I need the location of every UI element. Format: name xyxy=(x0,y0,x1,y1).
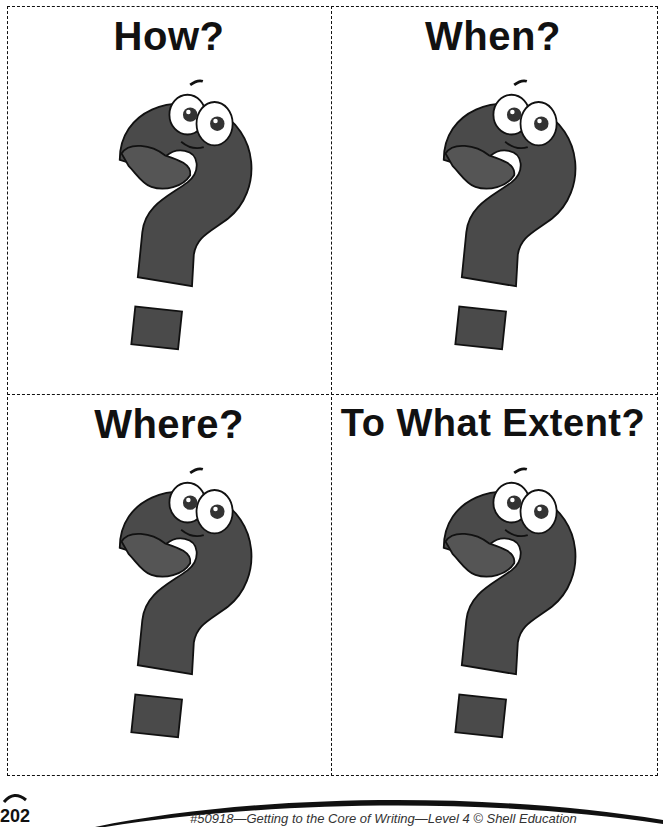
card-when: When? xyxy=(331,6,655,394)
footer-citation: #50918—Getting to the Core of Writing—Le… xyxy=(190,811,577,826)
card-title: When? xyxy=(331,14,655,59)
card-how: How? xyxy=(7,6,331,394)
question-mark-character-icon xyxy=(97,74,287,354)
question-mark-character-icon xyxy=(97,462,287,742)
card-title: How? xyxy=(7,14,331,59)
card-to-what-extent: To What Extent? xyxy=(331,394,655,782)
question-mark-character-icon xyxy=(421,74,611,354)
cut-line-right xyxy=(657,6,658,776)
card-title: To What Extent? xyxy=(331,402,655,445)
card-where: Where? xyxy=(7,394,331,782)
card-title: Where? xyxy=(7,402,331,447)
question-mark-character-icon xyxy=(421,462,611,742)
